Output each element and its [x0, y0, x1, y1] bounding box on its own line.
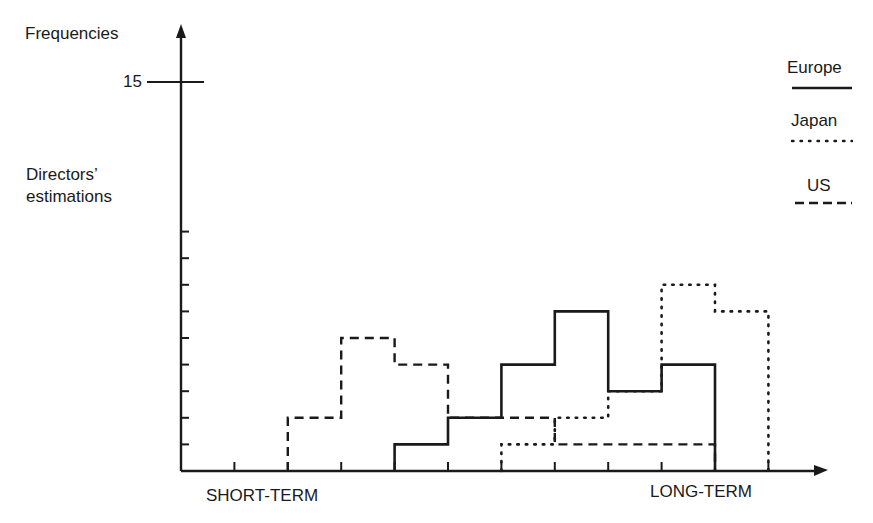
chart-plot [0, 0, 873, 523]
y-axis-arrow-icon [176, 24, 186, 38]
series-europe-line [395, 311, 715, 471]
axes [181, 34, 818, 471]
series-japan-line [501, 285, 768, 471]
x-axis-arrow-icon [814, 465, 828, 476]
